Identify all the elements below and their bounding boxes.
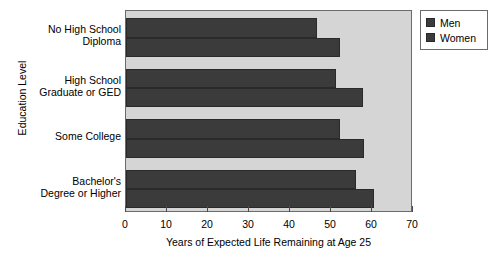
legend-item-women[interactable]: Women [426, 30, 482, 45]
legend-swatch-icon [426, 33, 435, 42]
x-tick-label: 0 [110, 218, 140, 230]
legend-item-men[interactable]: Men [426, 15, 482, 30]
legend-label: Women [440, 32, 476, 44]
x-tick-label: 20 [192, 218, 222, 230]
bar-men-group-3 [126, 170, 356, 189]
x-tick-label: 10 [151, 218, 181, 230]
legend: MenWomen [420, 10, 488, 50]
bar-women-group-3 [126, 189, 374, 208]
y-axis-title: Education Level [16, 38, 28, 158]
category-label-line: Bachelor's [1, 175, 121, 187]
x-axis-title: Years of Expected Life Remaining at Age … [125, 236, 412, 248]
x-tick-label: 70 [397, 218, 427, 230]
bar-women-group-1 [126, 88, 363, 107]
plot-area [125, 10, 412, 212]
x-tick-label: 50 [315, 218, 345, 230]
x-tick-mark [207, 206, 208, 212]
x-tick-label: 60 [356, 218, 386, 230]
x-tick-mark [371, 206, 372, 212]
x-tick-mark [330, 206, 331, 212]
x-tick-mark [289, 206, 290, 212]
legend-label: Men [440, 17, 460, 29]
legend-swatch-icon [426, 18, 435, 27]
x-axis-ticks: 010203040506070 [125, 212, 412, 218]
bar-women-group-0 [126, 38, 340, 57]
x-tick-mark [412, 206, 413, 212]
category-label-3: Bachelor'sDegree or Higher [1, 175, 121, 199]
x-tick-label: 40 [274, 218, 304, 230]
category-label-line: No High School [1, 23, 121, 35]
bar-men-group-2 [126, 119, 340, 138]
bar-women-group-2 [126, 139, 364, 158]
bar-men-group-0 [126, 18, 317, 37]
x-tick-label: 30 [233, 218, 263, 230]
x-tick-mark [248, 206, 249, 212]
x-tick-mark [125, 206, 126, 212]
x-tick-mark [166, 206, 167, 212]
bar-men-group-1 [126, 69, 336, 88]
category-label-line: Degree or Higher [1, 187, 121, 199]
chart-figure: No High SchoolDiplomaHigh SchoolGraduate… [0, 0, 498, 264]
